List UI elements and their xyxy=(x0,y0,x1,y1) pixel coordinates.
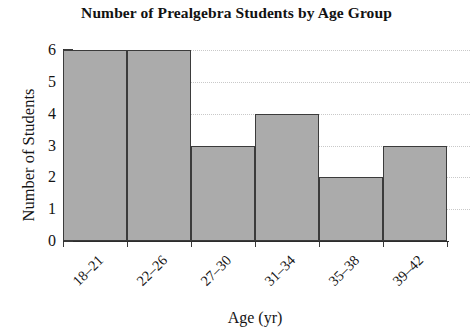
bar xyxy=(255,114,319,241)
y-axis-tick-label: 6 xyxy=(30,42,56,58)
bar xyxy=(383,146,447,242)
x-axis-tick-mark xyxy=(255,242,256,247)
y-axis-tick-label: 4 xyxy=(30,106,56,122)
x-axis-tick-mark xyxy=(447,242,448,247)
plot-area xyxy=(63,50,447,241)
bar xyxy=(191,146,255,242)
x-axis-tick-mark xyxy=(127,242,128,247)
y-axis-tick-label: 5 xyxy=(30,74,56,90)
y-axis-tick-label: 0 xyxy=(30,233,56,249)
bar xyxy=(127,50,191,241)
y-axis-tick-label: 1 xyxy=(30,201,56,217)
y-axis-tick-label: 3 xyxy=(30,138,56,154)
x-axis-tick-mark xyxy=(319,242,320,247)
bar xyxy=(63,50,127,241)
chart-title: Number of Prealgebra Students by Age Gro… xyxy=(0,4,473,22)
x-axis-title: Age (yr) xyxy=(63,309,447,327)
bar xyxy=(319,177,383,241)
x-axis-tick-mark xyxy=(63,242,64,247)
x-axis-tick-mark xyxy=(191,242,192,247)
bar-chart: Number of Prealgebra Students by Age Gro… xyxy=(0,0,473,334)
y-axis-tick-label: 2 xyxy=(30,169,56,185)
x-axis-tick-mark xyxy=(383,242,384,247)
